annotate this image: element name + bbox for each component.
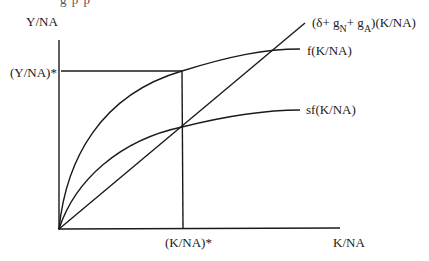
- sf-curve-label: sf(K/NA): [306, 103, 356, 116]
- x-axis-label: K/NA: [333, 236, 365, 249]
- sub-n: N: [340, 23, 347, 34]
- solow-diagram: [0, 0, 429, 261]
- y-axis-label: Y/NA: [26, 15, 58, 28]
- sub-a: A: [364, 23, 371, 34]
- f-curve-label: f(K/NA): [307, 44, 352, 57]
- x-star-label: (K/NA)*: [165, 236, 212, 249]
- sf-curve: [59, 110, 300, 229]
- y-star-label: (Y/NA)*: [10, 66, 57, 79]
- break-even-plus: + g: [347, 15, 364, 30]
- break-even-line: [59, 23, 305, 229]
- f-curve: [59, 49, 300, 229]
- x-star-guide: [182, 71, 183, 228]
- break-even-suffix: )(K/NA): [371, 15, 416, 30]
- break-even-prefix: (δ+ g: [312, 15, 340, 30]
- break-even-label: (δ+ gN+ gA)(K/NA): [312, 16, 416, 29]
- x-axis: [59, 228, 340, 229]
